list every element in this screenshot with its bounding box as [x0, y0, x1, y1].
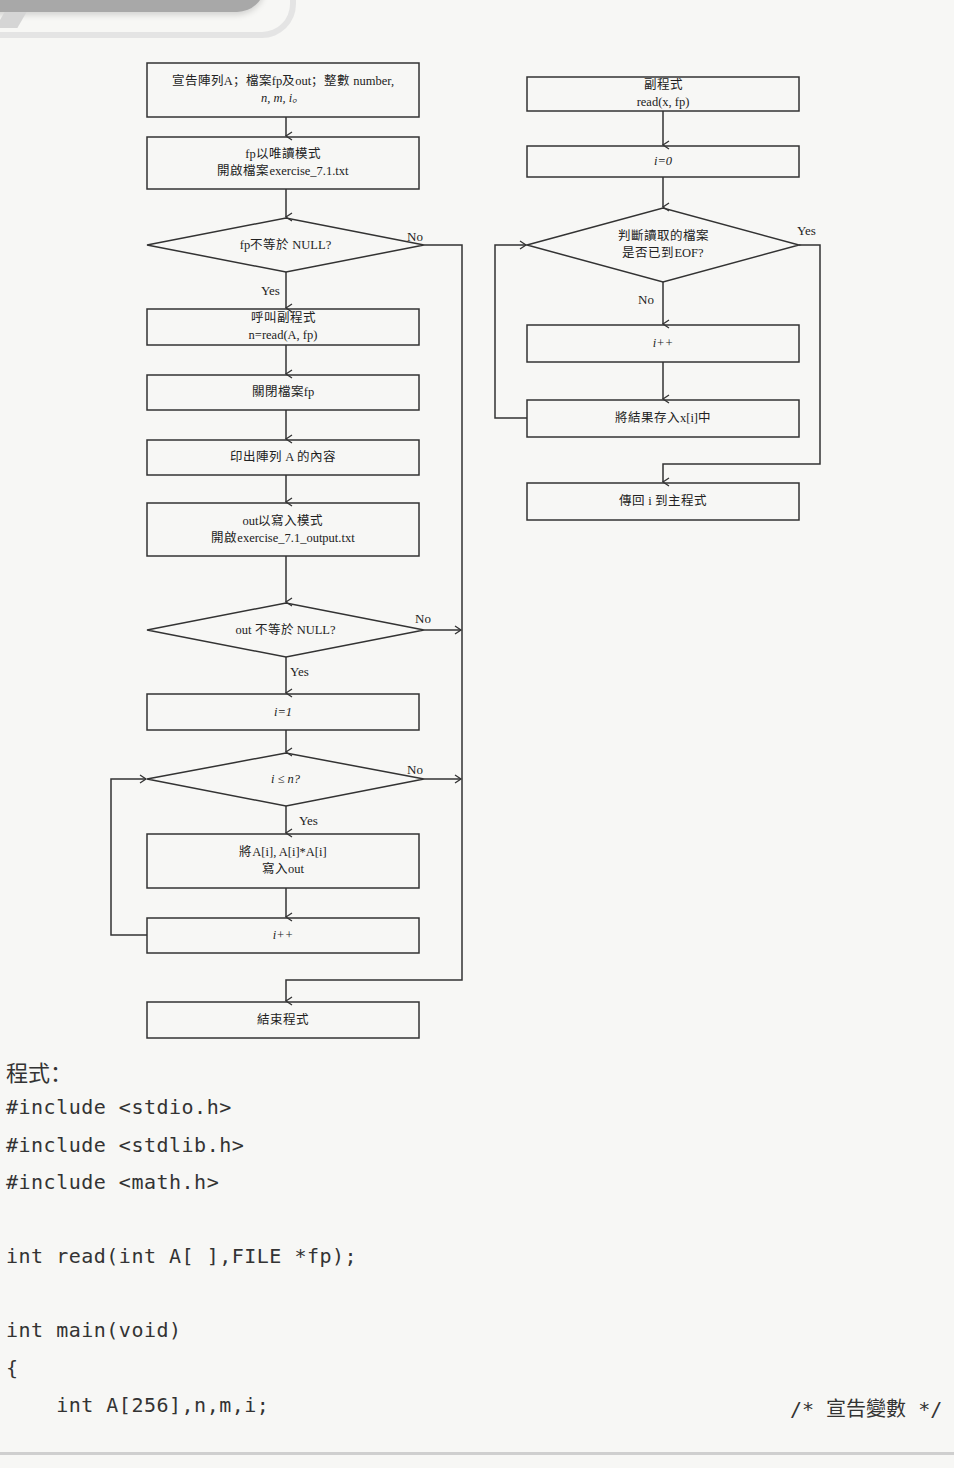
eof-line2: 是否已到EOF?	[622, 245, 703, 262]
sub-init-text: i=0	[654, 153, 672, 170]
eof-line1: 判斷讀取的檔案	[618, 228, 709, 245]
close-fp-node: 關閉檔案fp	[147, 375, 419, 410]
sub-increment-text: i++	[653, 335, 673, 352]
return-node: 傳回 i 到主程式	[527, 483, 799, 520]
no-label-loop: No	[407, 762, 423, 778]
call-read-line2: n=read(A, fp)	[249, 327, 318, 344]
increment-node: i++	[147, 918, 419, 953]
sub-header-node: 副程式 read(x, fp)	[527, 77, 799, 111]
init-i-text: i=1	[274, 704, 292, 721]
declare-line2: n, m, i。	[261, 90, 305, 107]
decision-out-text: out 不等於 NULL?	[235, 622, 335, 639]
code-line: {	[6, 1356, 19, 1380]
close-fp-text: 關閉檔案fp	[252, 384, 314, 401]
code-title: 程式：	[6, 1055, 72, 1087]
fp-not-null-decision: fp不等於 NULL?	[147, 218, 424, 272]
sub-header-line1: 副程式	[644, 77, 683, 94]
decision-fp-text: fp不等於 NULL?	[240, 237, 331, 254]
store-node: 將結果存入x[i]中	[527, 400, 799, 437]
yes-label-loop: Yes	[299, 813, 318, 829]
init-i-node: i=1	[147, 694, 419, 730]
open-read-line2: 開啟檔案exercise_7.1.txt	[217, 163, 348, 180]
write-out-node: 將A[i], A[i]*A[i] 寫入out	[147, 834, 419, 888]
print-array-text: 印出陣列 A 的內容	[230, 449, 336, 466]
code-comment: /* 宣告變數 */	[790, 1393, 942, 1422]
code-line: int read(int A[ ],FILE *fp);	[6, 1244, 357, 1268]
open-read-node: fp以唯讀模式 開啟檔案exercise_7.1.txt	[147, 137, 419, 189]
end-text: 結束程式	[257, 1012, 309, 1029]
print-array-node: 印出陣列 A 的內容	[147, 440, 419, 475]
eof-decision: 判斷讀取的檔案 是否已到EOF?	[527, 208, 799, 282]
bottom-divider	[0, 1452, 954, 1455]
flowchart-lines	[0, 0, 954, 1050]
loop-decision: i ≤ n?	[147, 753, 424, 806]
yes-label-eof: Yes	[797, 223, 816, 239]
return-text: 傳回 i 到主程式	[619, 493, 707, 510]
write-out-line1: 將A[i], A[i]*A[i]	[239, 844, 326, 861]
declare-node: 宣告陣列A；檔案fp及out；整數 number, n, m, i。	[147, 63, 419, 117]
code-line: #include <stdlib.h>	[6, 1133, 244, 1157]
call-read-node: 呼叫副程式 n=read(A, fp)	[147, 309, 419, 345]
out-not-null-decision: out 不等於 NULL?	[147, 603, 424, 657]
code-line: #include <math.h>	[6, 1170, 219, 1194]
yes-label-out: Yes	[290, 664, 309, 680]
open-write-line2: 開啟exercise_7.1_output.txt	[211, 530, 354, 547]
no-label-out: No	[415, 611, 431, 627]
store-text: 將結果存入x[i]中	[615, 410, 711, 427]
end-node: 結束程式	[147, 1002, 419, 1038]
no-label-eof: No	[638, 292, 654, 308]
no-label-fp: No	[407, 229, 423, 245]
declare-line1: 宣告陣列A；檔案fp及out；整數 number,	[172, 73, 394, 90]
code-line: #include <stdio.h>	[6, 1095, 232, 1119]
sub-init-node: i=0	[527, 146, 799, 177]
write-out-line2: 寫入out	[262, 861, 304, 878]
code-line: int main(void)	[6, 1318, 182, 1342]
code-line: int A[256],n,m,i;	[6, 1393, 269, 1417]
sub-increment-node: i++	[527, 325, 799, 362]
open-write-line1: out以寫入模式	[243, 513, 324, 530]
sub-header-line2: read(x, fp)	[637, 94, 690, 111]
open-write-node: out以寫入模式 開啟exercise_7.1_output.txt	[147, 503, 419, 556]
increment-text: i++	[273, 927, 293, 944]
yes-label-fp: Yes	[261, 283, 280, 299]
call-read-line1: 呼叫副程式	[251, 310, 316, 327]
open-read-line1: fp以唯讀模式	[245, 146, 320, 163]
loop-decision-text: i ≤ n?	[271, 771, 300, 788]
